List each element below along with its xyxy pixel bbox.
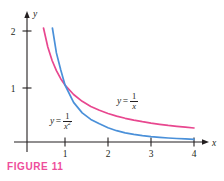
- curve-label-lhs: y: [50, 117, 54, 127]
- fraction-denominator: x: [131, 102, 137, 111]
- plot-area: y x 1 2 1 2 3 4: [0, 0, 224, 181]
- x-tick-label-4: 4: [192, 149, 197, 159]
- fraction: 1 x2: [63, 112, 72, 131]
- fraction-numerator: 1: [64, 112, 70, 121]
- x-tick-label-1: 1: [63, 149, 68, 159]
- y-tick-label-2: 2: [11, 27, 16, 37]
- x-tick-label-3: 3: [149, 149, 154, 159]
- fraction: 1 x: [130, 92, 138, 111]
- x-axis: [14, 139, 209, 144]
- curve-label-lhs: y: [117, 97, 121, 107]
- curve-one-over-x-squared: [52, 28, 194, 139]
- curve-label-equals: =: [123, 97, 128, 107]
- fraction-denominator: x2: [63, 122, 72, 131]
- y-axis: [24, 11, 29, 152]
- x-axis-arrowhead: [202, 139, 209, 144]
- curve-label-equals: =: [56, 117, 61, 127]
- figure-container: y x 1 2 1 2 3 4 y = 1 x y = 1 x2 FIGU: [0, 0, 224, 181]
- fraction-numerator: 1: [131, 92, 137, 101]
- curve-label-one-over-x-squared: y = 1 x2: [50, 112, 72, 131]
- y-axis-arrowhead: [24, 11, 29, 18]
- x-axis-label: x: [211, 138, 217, 148]
- fraction-denominator-exponent: 2: [68, 120, 71, 126]
- x-tick-label-2: 2: [106, 149, 111, 159]
- figure-caption: FIGURE 11: [7, 161, 64, 172]
- y-tick-label-1: 1: [11, 84, 16, 94]
- curve-label-one-over-x: y = 1 x: [117, 92, 138, 111]
- y-axis-label: y: [32, 9, 38, 19]
